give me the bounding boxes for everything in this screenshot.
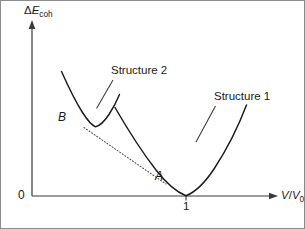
- y-axis-tick-label-zero: 0: [18, 189, 25, 201]
- curve-structure-2: [62, 72, 120, 127]
- x-axis-arrowhead-icon: [269, 193, 278, 200]
- x-axis-tick-label-one: 1: [183, 201, 189, 213]
- x-axis-label-denominator: V: [292, 189, 300, 201]
- y-axis-label-subscript: coh: [39, 10, 52, 19]
- leader-line-structure-2: [97, 80, 114, 109]
- leader-line-structure-1: [196, 106, 216, 142]
- x-axis-label-subscript: 0: [300, 195, 305, 204]
- energy-volume-plot-svg: [0, 0, 305, 229]
- common-tangent-line: [84, 128, 166, 185]
- y-axis-label: ΔEcoh: [24, 5, 53, 20]
- annotation-point-a: A: [155, 170, 163, 182]
- y-axis-label-delta: Δ: [24, 4, 32, 16]
- figure-root: ΔEcoh V/V0 Structure 2 Structure 1 B A 0…: [0, 0, 305, 229]
- y-axis-arrowhead-icon: [29, 20, 36, 29]
- curve-structure-1: [115, 105, 247, 196]
- annotation-structure-2: Structure 2: [111, 65, 167, 77]
- annotation-point-b: B: [58, 111, 66, 123]
- annotation-structure-1: Structure 1: [214, 91, 270, 103]
- x-axis-label-numerator: V: [281, 189, 289, 201]
- x-axis-label: V/V0: [281, 190, 304, 205]
